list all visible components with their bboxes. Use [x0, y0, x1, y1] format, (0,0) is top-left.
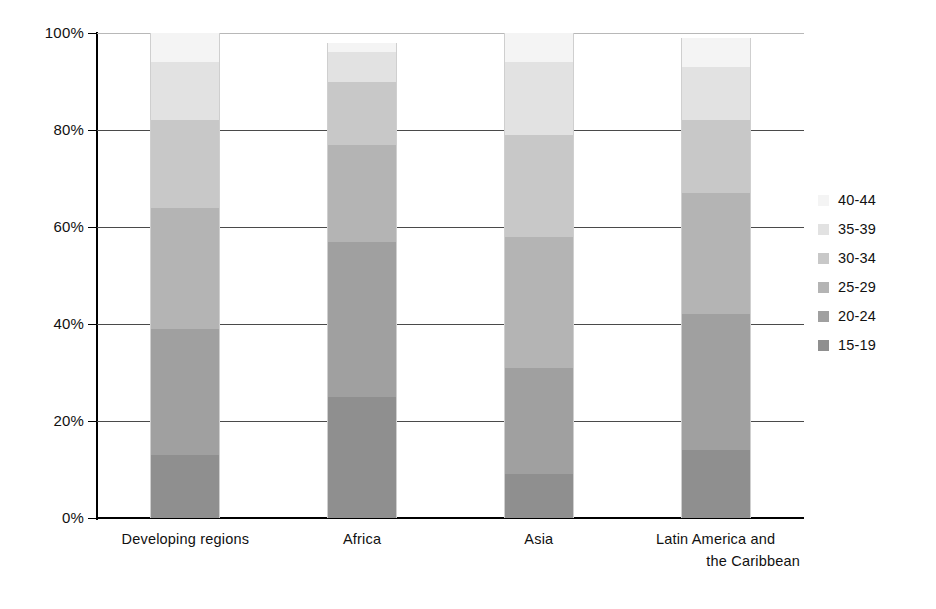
- bar-segment-15-19: [328, 397, 396, 518]
- bar-segment-25-29: [682, 193, 750, 314]
- bar-segment-40-44: [505, 33, 573, 62]
- y-axis-label: 60%: [0, 219, 84, 234]
- x-axis-label: Developing regions: [97, 528, 274, 550]
- bar-segment-25-29: [505, 237, 573, 368]
- legend-swatch-icon: [818, 224, 829, 235]
- bar-group: [627, 33, 804, 518]
- legend-label: 30-34: [838, 251, 876, 266]
- bar-segment-30-34: [328, 82, 396, 145]
- legend-label: 25-29: [838, 280, 876, 295]
- x-axis-label: Asia: [451, 528, 628, 550]
- bar-segment-25-29: [151, 208, 219, 329]
- y-tick-60: [88, 227, 97, 228]
- bar-segment-25-29: [328, 145, 396, 242]
- bar-group: [451, 33, 628, 518]
- bar-segment-35-39: [682, 67, 750, 120]
- y-tick-80: [88, 130, 97, 131]
- legend-label: 35-39: [838, 222, 876, 237]
- y-axis-label: 100%: [0, 25, 84, 40]
- x-axis-label-line: Asia: [451, 528, 628, 550]
- legend-item-35-39: 35-39: [818, 215, 936, 244]
- bar-group: [274, 33, 451, 518]
- bar-segment-30-34: [505, 135, 573, 237]
- y-tick-20: [88, 421, 97, 422]
- legend-item-25-29: 25-29: [818, 273, 936, 302]
- legend-label: 15-19: [838, 338, 876, 353]
- legend-item-40-44: 40-44: [818, 186, 936, 215]
- y-axis-label: 0%: [0, 510, 84, 525]
- x-axis-label: Latin America andthe Caribbean: [627, 528, 804, 572]
- bar-segment-15-19: [151, 455, 219, 518]
- x-axis-label: Africa: [274, 528, 451, 550]
- bar-segment-20-24: [682, 314, 750, 450]
- y-tick-40: [88, 324, 97, 325]
- y-tick-0: [88, 518, 97, 519]
- bar-segment-20-24: [505, 368, 573, 475]
- plot-area: [97, 33, 804, 518]
- legend-label: 40-44: [838, 193, 876, 208]
- bar-segment-30-34: [682, 120, 750, 193]
- bar-segment-35-39: [328, 52, 396, 81]
- bar-segment-15-19: [505, 474, 573, 518]
- bar-segment-20-24: [151, 329, 219, 455]
- bar-segment-40-44: [328, 43, 396, 53]
- x-axis-label-line: Developing regions: [97, 528, 274, 550]
- legend-swatch-icon: [818, 311, 829, 322]
- legend-item-20-24: 20-24: [818, 302, 936, 331]
- legend-swatch-icon: [818, 282, 829, 293]
- stacked-bar: [327, 43, 397, 518]
- y-axis-label: 80%: [0, 122, 84, 137]
- stacked-bar: [504, 33, 574, 518]
- y-axis-label: 20%: [0, 413, 84, 428]
- x-axis-label-line: Latin America and: [627, 528, 804, 550]
- legend-item-15-19: 15-19: [818, 331, 936, 360]
- bar-segment-35-39: [151, 62, 219, 120]
- legend-swatch-icon: [818, 253, 829, 264]
- bar-segment-15-19: [682, 450, 750, 518]
- x-axis-label-line: the Caribbean: [627, 550, 804, 572]
- legend-label: 20-24: [838, 309, 876, 324]
- bar-segment-20-24: [328, 242, 396, 397]
- stacked-bar-chart: 0%20%40%60%80%100% Developing regionsAfr…: [0, 0, 936, 609]
- legend-swatch-icon: [818, 195, 829, 206]
- stacked-bar: [150, 33, 220, 518]
- legend: 40-4435-3930-3425-2920-2415-19: [818, 186, 936, 360]
- bar-segment-40-44: [151, 33, 219, 62]
- y-tick-100: [88, 33, 97, 34]
- bar-group: [97, 33, 274, 518]
- legend-swatch-icon: [818, 340, 829, 351]
- x-axis-label-line: Africa: [274, 528, 451, 550]
- bar-segment-40-44: [682, 38, 750, 67]
- bar-segment-30-34: [151, 120, 219, 207]
- legend-item-30-34: 30-34: [818, 244, 936, 273]
- y-axis-label: 40%: [0, 316, 84, 331]
- stacked-bar: [681, 38, 751, 518]
- bar-segment-35-39: [505, 62, 573, 135]
